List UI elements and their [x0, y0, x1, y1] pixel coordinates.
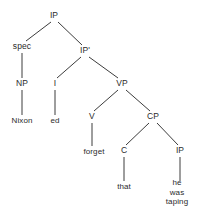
tree-node-cp: CP	[147, 112, 159, 122]
tree-node-hewastaping: he was taping	[165, 178, 190, 207]
tree-node-forget: forget	[83, 147, 104, 157]
tree-node-nixon: Nixon	[12, 116, 33, 126]
tree-edge-vp-to-cp	[126, 90, 150, 111]
tree-node-ed: ed	[50, 116, 59, 126]
tree-edge-ip-root-to-ip-bar	[58, 22, 82, 45]
tree-node-ip-embed: IP	[176, 146, 184, 156]
tree-node-c: C	[121, 146, 127, 156]
tree-edge-cp-to-c	[126, 123, 149, 145]
tree-node-that: that	[117, 182, 131, 192]
tree-node-np: NP	[16, 79, 28, 89]
tree-node-v: V	[89, 112, 95, 122]
tree-edge-ip-bar-to-i	[57, 57, 81, 78]
syntax-tree-diagram: IPspecIP'NPIVPNixonedVCPforgetCIPthathe …	[0, 0, 202, 212]
tree-node-i: I	[54, 79, 56, 89]
tree-edge-ip-root-to-spec	[26, 22, 51, 41]
tree-node-vp: VP	[116, 79, 128, 89]
tree-node-spec: spec	[13, 42, 31, 52]
tree-edge-vp-to-v	[94, 90, 118, 111]
tree-node-ip-root: IP	[50, 11, 58, 21]
tree-edge-cp-to-ip-embed	[157, 123, 178, 145]
tree-edge-ip-bar-to-vp	[89, 57, 118, 78]
tree-node-ip-bar: IP'	[80, 46, 90, 56]
